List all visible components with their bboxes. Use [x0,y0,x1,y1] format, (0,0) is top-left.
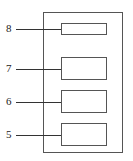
leader-line-5 [16,135,61,136]
component-5-box [61,123,107,146]
leader-line-8 [16,29,61,30]
component-7-box [61,57,107,80]
component-6-box [61,90,107,113]
leader-line-6 [16,102,61,103]
label-8: 8 [6,23,12,34]
leader-line-7 [16,69,61,70]
component-8-box [61,23,107,35]
label-6: 6 [6,96,12,107]
label-5: 5 [6,129,12,140]
label-7: 7 [6,63,12,74]
